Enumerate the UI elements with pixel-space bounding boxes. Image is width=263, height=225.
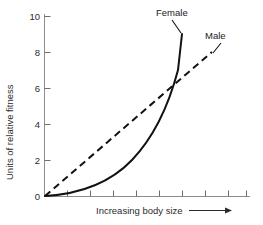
series-label-male: Male <box>205 30 226 41</box>
chart-plot-area: 10 8 6 4 2 0 Female Male Increasing bod <box>0 0 263 225</box>
y-tick-label-2: 2 <box>35 155 40 166</box>
x-axis-title: Increasing body size <box>96 205 183 216</box>
y-tick-label-10: 10 <box>29 11 40 22</box>
male-label-leader-line <box>213 43 221 53</box>
series-male-line <box>45 52 212 196</box>
y-tick-label-4: 4 <box>35 119 40 130</box>
x-axis-ticks <box>68 191 247 197</box>
series-female-curve <box>45 34 182 196</box>
y-axis-title: Units of relative fitness <box>4 84 15 180</box>
y-tick-label-8: 8 <box>35 47 40 58</box>
y-tick-label-0: 0 <box>35 191 40 202</box>
female-label-leader-line <box>172 20 181 33</box>
y-axis-ticks <box>45 17 51 197</box>
series-label-female: Female <box>156 7 188 18</box>
chart-figure: 10 8 6 4 2 0 Female Male Increasing bod <box>0 0 263 225</box>
y-tick-label-6: 6 <box>35 83 40 94</box>
right-arrow-icon <box>189 208 232 214</box>
